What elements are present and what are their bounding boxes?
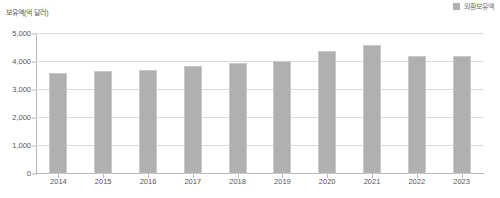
x-tick-mark-2022	[417, 174, 418, 178]
x-tick-mark-2019	[282, 174, 283, 178]
x-tick-mark-2023	[462, 174, 463, 178]
bar-2021	[363, 45, 381, 174]
legend-swatch-foreign-reserves	[453, 3, 460, 10]
x-tick-label-2014: 2014	[50, 178, 67, 186]
x-tick-label-2023: 2023	[453, 178, 470, 186]
y-axis-tick-labels: 5,0004,0003,0002,0001,0000	[0, 34, 36, 174]
foreign-reserves-bar-chart: 외환보유액 보유액(억 달러) 5,0004,0003,0002,0001,00…	[0, 0, 500, 198]
y-tick-label-1000: 1,000	[12, 142, 31, 150]
x-tick-mark-2017	[193, 174, 194, 178]
x-tick-mark-2016	[148, 174, 149, 178]
y-tick-label-3000: 3,000	[12, 86, 31, 94]
x-tick-label-2018: 2018	[229, 178, 246, 186]
bar-2016	[139, 70, 157, 174]
x-tick-label-2017: 2017	[184, 178, 201, 186]
bar-series-foreign-reserves	[36, 34, 484, 174]
bar-2023	[453, 56, 471, 174]
x-tick-mark-2020	[327, 174, 328, 178]
legend-label-foreign-reserves: 외환보유액	[464, 3, 494, 10]
bar-2017	[184, 66, 202, 174]
x-tick-label-2021: 2021	[364, 178, 381, 186]
bar-2019	[273, 61, 291, 174]
x-tick-label-2020: 2020	[319, 178, 336, 186]
x-tick-label-2022: 2022	[408, 178, 425, 186]
chart-legend: 외환보유액	[453, 3, 494, 10]
y-tick-label-0: 0	[27, 170, 31, 178]
bar-2014	[49, 73, 67, 174]
y-tick-label-5000: 5,000	[12, 30, 31, 38]
x-tick-mark-2021	[372, 174, 373, 178]
y-axis-title: 보유액(억 달러)	[6, 9, 49, 16]
y-tick-label-2000: 2,000	[12, 114, 31, 122]
x-tick-label-2015: 2015	[95, 178, 112, 186]
x-tick-mark-2018	[238, 174, 239, 178]
bar-2022	[408, 56, 426, 174]
bar-2020	[318, 51, 336, 174]
y-tick-label-4000: 4,000	[12, 58, 31, 66]
bar-2015	[94, 71, 112, 174]
bar-2018	[229, 63, 247, 174]
x-tick-label-2016: 2016	[140, 178, 157, 186]
x-tick-mark-2014	[58, 174, 59, 178]
x-tick-mark-2015	[103, 174, 104, 178]
plot-area	[36, 34, 484, 174]
x-axis-tick-labels: 2014201520162017201820192020202120222023	[36, 178, 484, 192]
x-tick-label-2019: 2019	[274, 178, 291, 186]
